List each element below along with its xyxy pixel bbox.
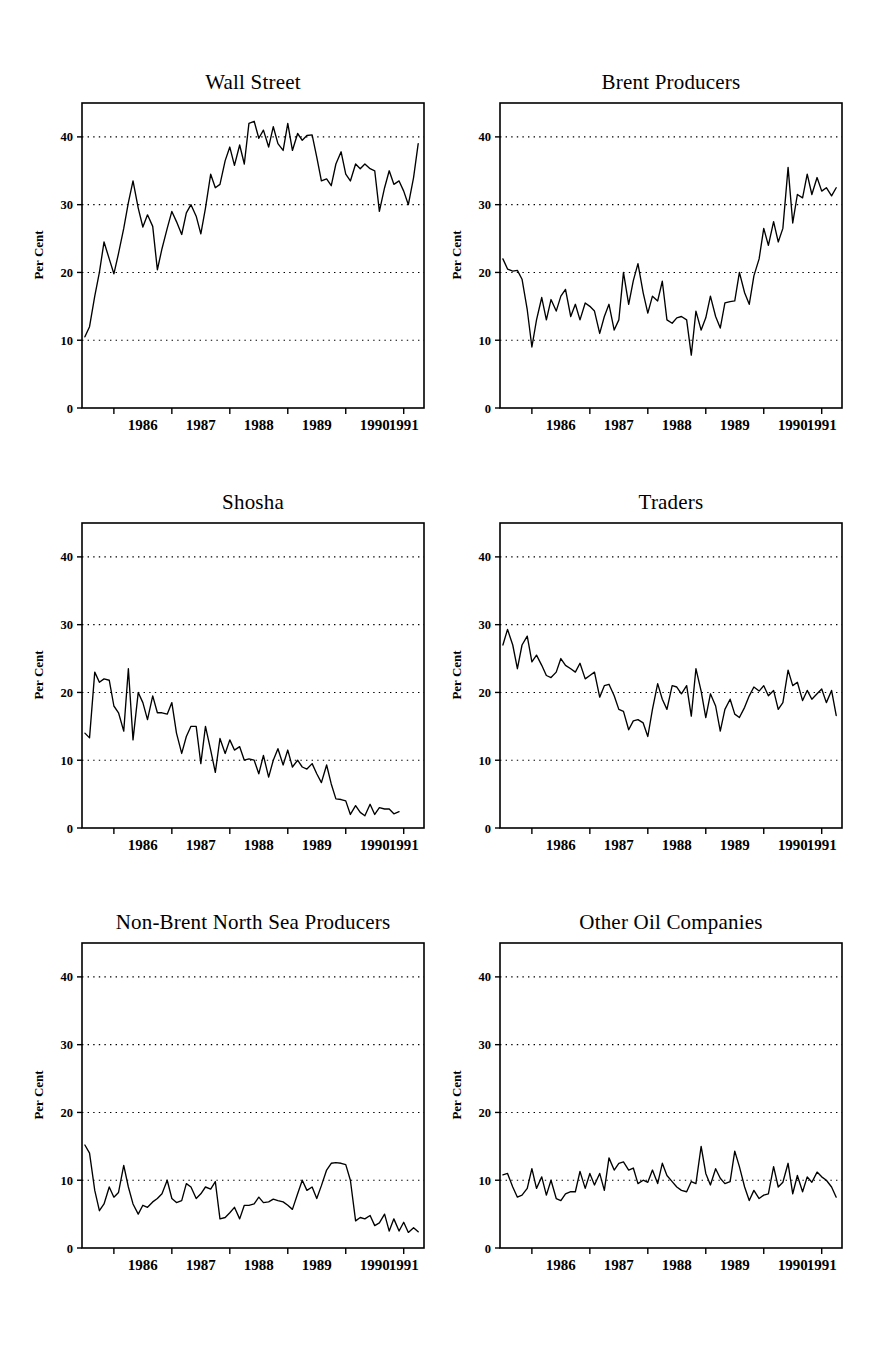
- y-tick-label: 0: [485, 402, 491, 416]
- series-line-traders-0: [503, 629, 836, 736]
- plot-area-shosha: 010203040198619871988198919901991: [22, 482, 446, 882]
- y-tick-label: 0: [67, 822, 73, 836]
- x-tick-label: 1990: [360, 1257, 390, 1273]
- y-tick-label: 40: [61, 550, 74, 564]
- y-tick-label: 30: [479, 618, 492, 632]
- y-tick-label: 30: [479, 198, 492, 212]
- plot-frame: [82, 523, 424, 828]
- y-tick-label: 20: [61, 266, 74, 280]
- x-tick-label: 1988: [662, 1257, 692, 1273]
- y-tick-label: 0: [67, 1242, 73, 1256]
- x-tick-label: 1987: [604, 837, 635, 853]
- x-tick-label: 1989: [720, 417, 750, 433]
- chart-panel-other-oil-companies: Other Oil CompaniesPer Cent0102030401986…: [440, 902, 840, 1292]
- x-tick-label: 1987: [186, 417, 217, 433]
- plot-frame: [500, 103, 842, 408]
- x-tick-label: 1987: [186, 1257, 217, 1273]
- x-tick-label: 1989: [302, 1257, 332, 1273]
- y-tick-label: 40: [479, 550, 492, 564]
- y-tick-label: 20: [61, 1106, 74, 1120]
- plot-frame: [500, 943, 842, 1248]
- x-tick-label: 1989: [302, 417, 332, 433]
- x-tick-label: 1988: [244, 417, 274, 433]
- y-tick-label: 30: [61, 1038, 74, 1052]
- x-tick-label: 1988: [662, 837, 692, 853]
- chart-panel-brent-producers: Brent ProducersPer Cent01020304019861987…: [440, 62, 840, 452]
- x-tick-label: 1991: [389, 837, 419, 853]
- series-line-brent-producers-0: [503, 167, 836, 355]
- chart-panel-non-brent-north-sea-producers: Non-Brent North Sea ProducersPer Cent010…: [22, 902, 422, 1292]
- y-tick-label: 20: [479, 1106, 492, 1120]
- figure-canvas: Wall StreetPer Cent010203040198619871988…: [0, 0, 887, 1351]
- x-tick-label: 1987: [186, 837, 217, 853]
- x-tick-label: 1986: [546, 417, 577, 433]
- y-tick-label: 0: [485, 822, 491, 836]
- y-tick-label: 30: [61, 198, 74, 212]
- x-tick-label: 1989: [720, 837, 750, 853]
- plot-area-brent-producers: 010203040198619871988198919901991: [440, 62, 864, 462]
- y-tick-label: 10: [479, 1174, 492, 1188]
- plot-frame: [82, 943, 424, 1248]
- plot-frame: [82, 103, 424, 408]
- y-tick-label: 0: [485, 1242, 491, 1256]
- x-tick-label: 1988: [244, 837, 274, 853]
- y-tick-label: 20: [479, 266, 492, 280]
- x-tick-label: 1991: [807, 1257, 837, 1273]
- chart-panel-wall-street: Wall StreetPer Cent010203040198619871988…: [22, 62, 422, 452]
- y-tick-label: 30: [61, 618, 74, 632]
- x-tick-label: 1986: [546, 1257, 577, 1273]
- x-tick-label: 1989: [720, 1257, 750, 1273]
- x-tick-label: 1991: [807, 837, 837, 853]
- plot-area-non-brent-north-sea-producers: 010203040198619871988198919901991: [22, 902, 446, 1302]
- series-line-other-oil-companies-0: [503, 1146, 836, 1200]
- x-tick-label: 1990: [778, 417, 808, 433]
- x-tick-label: 1991: [389, 1257, 419, 1273]
- y-tick-label: 20: [479, 686, 492, 700]
- y-tick-label: 40: [479, 130, 492, 144]
- y-tick-label: 10: [61, 334, 74, 348]
- y-tick-label: 40: [61, 970, 74, 984]
- y-tick-label: 40: [479, 970, 492, 984]
- y-tick-label: 10: [61, 754, 74, 768]
- y-tick-label: 30: [479, 1038, 492, 1052]
- y-tick-label: 40: [61, 130, 74, 144]
- x-tick-label: 1986: [128, 417, 159, 433]
- y-tick-label: 20: [61, 686, 74, 700]
- plot-area-other-oil-companies: 010203040198619871988198919901991: [440, 902, 864, 1302]
- plot-frame: [500, 523, 842, 828]
- x-tick-label: 1991: [807, 417, 837, 433]
- y-tick-label: 0: [67, 402, 73, 416]
- x-tick-label: 1987: [604, 417, 635, 433]
- plot-area-wall-street: 010203040198619871988198919901991: [22, 62, 446, 462]
- x-tick-label: 1990: [360, 837, 390, 853]
- x-tick-label: 1986: [128, 837, 159, 853]
- series-line-non-brent-north-sea-producers-0: [85, 1145, 418, 1232]
- series-line-wall-street-0: [85, 121, 418, 337]
- chart-panel-shosha: ShoshaPer Cent01020304019861987198819891…: [22, 482, 422, 872]
- y-tick-label: 10: [479, 334, 492, 348]
- x-tick-label: 1986: [546, 837, 577, 853]
- y-tick-label: 10: [479, 754, 492, 768]
- chart-panel-traders: TradersPer Cent0102030401986198719881989…: [440, 482, 840, 872]
- x-tick-label: 1990: [778, 1257, 808, 1273]
- x-tick-label: 1987: [604, 1257, 635, 1273]
- series-line-shosha-0: [85, 669, 399, 816]
- y-tick-label: 10: [61, 1174, 74, 1188]
- plot-area-traders: 010203040198619871988198919901991: [440, 482, 864, 882]
- x-tick-label: 1986: [128, 1257, 159, 1273]
- x-tick-label: 1991: [389, 417, 419, 433]
- x-tick-label: 1988: [662, 417, 692, 433]
- x-tick-label: 1989: [302, 837, 332, 853]
- x-tick-label: 1990: [778, 837, 808, 853]
- x-tick-label: 1990: [360, 417, 390, 433]
- x-tick-label: 1988: [244, 1257, 274, 1273]
